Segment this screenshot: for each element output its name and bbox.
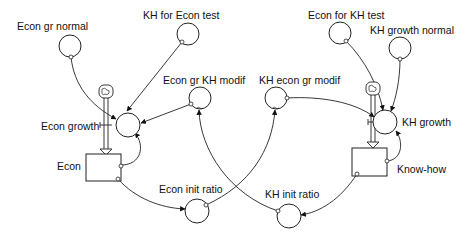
link-kh-growth-normal-to-kh-growth bbox=[391, 59, 400, 111]
label-econ-for-kh-test: Econ for KH test bbox=[308, 9, 385, 21]
link-econ-gr-kh-modif-to-econ-growth bbox=[141, 104, 191, 123]
label-econ-gr-kh-modif: Econ gr KH modif bbox=[163, 74, 245, 86]
label-econ-init-ratio: Econ init ratio bbox=[159, 183, 223, 195]
aux-econ-for-kh-test[interactable] bbox=[329, 22, 351, 44]
aux-kh-econ-gr-modif[interactable] bbox=[265, 87, 289, 109]
link-econ-to-econ-growth bbox=[121, 133, 141, 165]
aux-kh-growth-normal[interactable] bbox=[389, 37, 411, 61]
econ-growth-flow-pipe bbox=[99, 85, 113, 155]
stock-econ[interactable] bbox=[86, 154, 123, 181]
stock-flow-diagram: Econ gr normal KH for Econ test Econ gr … bbox=[0, 0, 465, 237]
aux-econ-init-ratio[interactable] bbox=[185, 199, 209, 223]
link-kh-econ-gr-modif-to-kh-growth bbox=[287, 98, 374, 117]
label-kh-growth-normal: KH growth normal bbox=[370, 24, 454, 36]
label-kh-init-ratio: KH init ratio bbox=[265, 188, 319, 200]
valve-icon bbox=[100, 122, 112, 128]
link-knowhow-to-kh-growth bbox=[387, 131, 401, 161]
flow-kh-growth[interactable] bbox=[373, 110, 397, 134]
aux-econ-gr-kh-modif[interactable] bbox=[189, 87, 211, 109]
aux-kh-for-econ-test[interactable] bbox=[177, 23, 199, 45]
label-kh-econ-gr-modif: KH econ gr modif bbox=[259, 74, 340, 86]
label-econ: Econ bbox=[57, 160, 81, 172]
link-econ-for-kh-test-to-kh-growth bbox=[346, 41, 383, 110]
label-knowhow: Know-how bbox=[397, 163, 446, 175]
label-econ-growth: Econ growth bbox=[41, 120, 100, 132]
label-kh-for-econ-test: KH for Econ test bbox=[143, 9, 220, 21]
label-econ-gr-normal: Econ gr normal bbox=[17, 20, 88, 32]
label-kh-growth: KH growth bbox=[402, 116, 451, 128]
flow-arrowhead-icon bbox=[367, 142, 379, 148]
flow-econ-growth[interactable] bbox=[116, 113, 140, 137]
stock-knowhow[interactable] bbox=[352, 148, 389, 176]
aux-econ-gr-normal[interactable] bbox=[59, 35, 81, 59]
aux-kh-init-ratio[interactable] bbox=[276, 204, 301, 228]
cloud-source-icon bbox=[99, 85, 113, 98]
cloud-source-icon bbox=[366, 82, 380, 95]
